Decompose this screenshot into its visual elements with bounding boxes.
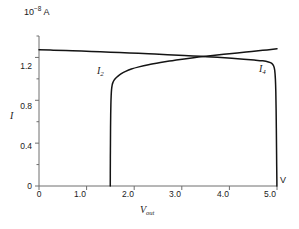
x-tick-label-1: 1.0 bbox=[70, 190, 90, 199]
curve-annotation-i4-subscript: 4 bbox=[262, 68, 266, 76]
x-tick-label-2: 2.0 bbox=[118, 190, 138, 199]
y-axis-name: I bbox=[10, 111, 13, 121]
y-tick-label-2: 0.8 bbox=[8, 102, 32, 111]
y-axis-ticks bbox=[35, 36, 39, 186]
curve-annotation-i4: I4 bbox=[259, 64, 266, 74]
iv-characteristic-figure: 10−8 A I 0 0.4 0.8 1.2 0 1.0 2.0 3.0 4.0… bbox=[0, 0, 299, 229]
x-tick-label-3: 3.0 bbox=[165, 190, 185, 199]
y-axis-unit-header: 10−8 A bbox=[24, 6, 49, 17]
x-axis-name: Vout bbox=[140, 205, 154, 215]
x-tick-label-0: 0 bbox=[31, 190, 47, 199]
y-tick-label-0: 0 bbox=[8, 182, 32, 191]
curve-annotation-i2-subscript: 2 bbox=[100, 70, 104, 78]
x-axis-unit-label: V bbox=[280, 176, 286, 185]
y-unit-exponent: −8 bbox=[34, 5, 41, 12]
x-tick-label-4: 4.0 bbox=[213, 190, 233, 199]
y-unit-mantissa: 10 bbox=[24, 7, 34, 17]
curve-i2 bbox=[110, 49, 277, 186]
y-tick-label-3: 1.2 bbox=[8, 62, 32, 71]
y-unit-suffix: A bbox=[43, 7, 49, 17]
curve-i4 bbox=[39, 50, 277, 186]
series-group bbox=[39, 49, 277, 186]
x-axis-name-subscript: out bbox=[146, 209, 154, 216]
curve-annotation-i2: I2 bbox=[97, 66, 104, 76]
x-tick-label-5: 5.0 bbox=[260, 190, 280, 199]
y-tick-label-1: 0.4 bbox=[8, 142, 32, 151]
